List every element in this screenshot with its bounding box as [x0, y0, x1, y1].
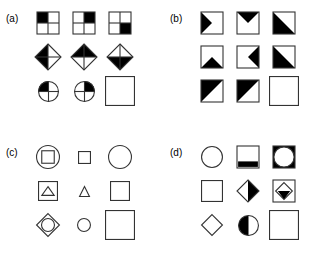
- matrix-b: [194, 6, 302, 108]
- cell-c-1-circle-containing-square: [30, 140, 66, 174]
- cell-a-1-grid-square-top-left-black: [30, 6, 66, 40]
- cell-d-9-answer-slot-empty-square[interactable]: [266, 208, 302, 242]
- cell-b-2-square-triangle-pointing-down: [230, 6, 266, 40]
- matrix-c: [30, 140, 138, 242]
- cell-b-9-answer-slot-empty-square[interactable]: [266, 74, 302, 108]
- cell-c-4-square-containing-triangle: [30, 174, 66, 208]
- cell-a-6-diamond-bottom-black: [102, 40, 138, 74]
- cell-d-8-circle-left-half-black: [230, 208, 266, 242]
- cell-d-4-plain-square: [194, 174, 230, 208]
- cell-c-9-answer-slot-empty-square[interactable]: [102, 208, 138, 242]
- matrix-a: [30, 6, 138, 108]
- cell-a-3-grid-square-bottom-right-black: [102, 6, 138, 40]
- panel-c: (c): [4, 138, 154, 263]
- cell-a-5-diamond-top-black: [66, 40, 102, 74]
- cell-d-7-plain-diamond: [194, 208, 230, 242]
- cell-b-3-square-half-lower-left: [266, 6, 302, 40]
- panel-a: (a): [4, 4, 154, 129]
- figure-canvas: (a)(b)(c)(d): [0, 0, 324, 274]
- cell-c-2-small-square: [66, 140, 102, 174]
- cell-a-8-circle-top-right-black: [66, 74, 102, 108]
- panel-label-a: (a): [6, 14, 18, 24]
- panel-d: (d): [168, 138, 318, 263]
- cell-d-1-plain-circle: [194, 140, 230, 174]
- cell-c-6-medium-square: [102, 174, 138, 208]
- panel-b: (b): [168, 4, 318, 129]
- cell-c-3-large-circle: [102, 140, 138, 174]
- cell-d-3-square-with-circle-notch: [266, 140, 302, 174]
- cell-d-6-square-diamond-black-wedge: [266, 174, 302, 208]
- matrix-d: [194, 140, 302, 242]
- panel-label-b: (b): [170, 14, 182, 24]
- cell-b-6-square-half-lower-left-2: [266, 40, 302, 74]
- cell-b-5-square-triangle-pointing-left: [230, 40, 266, 74]
- cell-c-7-diamond-containing-circle: [30, 208, 66, 242]
- cell-b-7-square-half-upper-left: [194, 74, 230, 108]
- cell-b-1-square-triangle-pointing-right: [194, 6, 230, 40]
- cell-d-2-square-black-bottom-band: [230, 140, 266, 174]
- cell-a-9-answer-slot-empty-square[interactable]: [102, 74, 138, 108]
- cell-b-4-square-triangle-pointing-up: [194, 40, 230, 74]
- cell-d-5-diamond-right-half-black: [230, 174, 266, 208]
- cell-b-8-square-half-upper-left-2: [230, 74, 266, 108]
- cell-a-4-diamond-left-black: [30, 40, 66, 74]
- cell-c-5-small-triangle: [66, 174, 102, 208]
- cell-a-7-circle-top-left-black: [30, 74, 66, 108]
- panel-label-d: (d): [170, 148, 182, 158]
- panel-label-c: (c): [6, 148, 18, 158]
- cell-c-8-small-circle: [66, 208, 102, 242]
- cell-a-2-grid-square-top-right-black: [66, 6, 102, 40]
